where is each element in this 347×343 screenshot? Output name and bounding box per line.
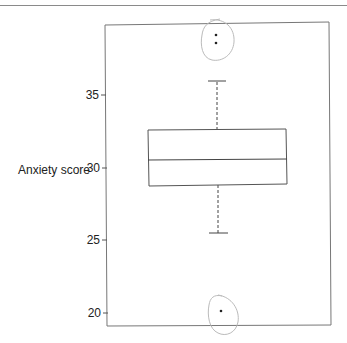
y-tick-label-35: 35 xyxy=(86,88,100,102)
box-plot: 35 30 25 20 Anxiety score xyxy=(0,0,347,343)
outlier-annotation-circle-bottom xyxy=(208,295,238,335)
y-tick-label-25: 25 xyxy=(87,233,101,247)
outlier-annotation-circle-top xyxy=(201,19,234,60)
iqr-box xyxy=(148,129,287,186)
y-tick-label-20: 20 xyxy=(88,306,102,320)
y-axis-label: Anxiety score xyxy=(18,163,90,177)
